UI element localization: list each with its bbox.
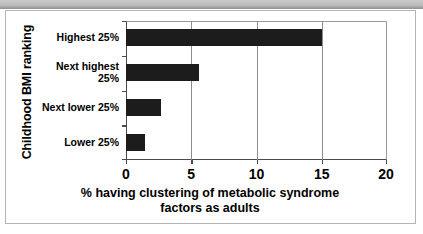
x-axis-title-line-2: factors as adults bbox=[160, 201, 259, 215]
x-tick-10 bbox=[257, 160, 258, 164]
bar-next-highest-25[interactable] bbox=[126, 64, 199, 81]
chart-figure: Childhood BMI ranking Highest 25% Next h… bbox=[0, 0, 423, 234]
plot-area: Highest 25% Next highest 25% Next lower … bbox=[126, 21, 387, 160]
x-tick-20 bbox=[386, 160, 387, 164]
x-tick-label-10: 10 bbox=[237, 166, 277, 182]
bar-highest-25[interactable] bbox=[126, 29, 322, 46]
x-tick-0 bbox=[126, 160, 127, 164]
x-tick-label-0: 0 bbox=[106, 166, 146, 182]
bar-lower-25[interactable] bbox=[126, 134, 145, 151]
y-tick-0 bbox=[122, 21, 126, 22]
y-tick-2 bbox=[122, 91, 126, 92]
scan-artifact-band bbox=[0, 0, 423, 9]
x-tick-label-20: 20 bbox=[366, 166, 406, 182]
y-tick-label-next-highest-25: Next highest 25% bbox=[1, 60, 119, 84]
y-tick-label-next-lower-25: Next lower 25% bbox=[1, 101, 119, 113]
x-tick-label-5: 5 bbox=[171, 166, 211, 182]
y-tick-3 bbox=[122, 125, 126, 126]
y-tick-label-lower-25: Lower 25% bbox=[1, 136, 119, 148]
x-tick-label-15: 15 bbox=[302, 166, 342, 182]
x-tick-5 bbox=[191, 160, 192, 164]
y-tick-1 bbox=[122, 56, 126, 57]
y-tick-label-highest-25: Highest 25% bbox=[1, 31, 119, 43]
x-tick-15 bbox=[322, 160, 323, 164]
bar-next-lower-25[interactable] bbox=[126, 99, 161, 116]
x-axis-title: % having clustering of metabolic syndrom… bbox=[30, 186, 390, 216]
gridline-15 bbox=[322, 21, 323, 160]
x-axis-title-line-1: % having clustering of metabolic syndrom… bbox=[81, 186, 339, 200]
